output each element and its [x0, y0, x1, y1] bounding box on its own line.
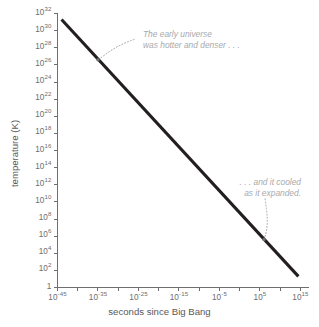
annotation-early-line-1: The early universe	[143, 29, 240, 40]
y-tick-label: 1032	[10, 8, 52, 17]
y-axis-title: temperature (K)	[9, 94, 20, 214]
annotation-cooled-expanded: . . . and it cooled as it expanded.	[217, 177, 301, 198]
y-tick-label: 104	[10, 247, 52, 256]
annotation-cooled-line-1: . . . and it cooled	[217, 177, 301, 188]
x-tick-label: 10-25	[118, 293, 158, 302]
annotation-early-line-2: was hotter and denser . . .	[143, 40, 240, 51]
annotation-early-universe: The early universe was hotter and denser…	[143, 29, 240, 50]
y-tick-label: 108	[10, 213, 52, 222]
y-tick-label: 102	[10, 264, 52, 273]
annotation-cooled-line-2: as it expanded.	[217, 188, 301, 199]
chart-container: 1032103010281026102410221020101810161014…	[0, 0, 319, 327]
x-tick-label: 10-5	[199, 293, 239, 302]
annotation-target-dot-cooled	[262, 238, 265, 241]
y-tick-label: 106	[10, 230, 52, 239]
y-tick-label: 1026	[10, 59, 52, 68]
annotation-leaders	[96, 39, 267, 242]
x-axis-title: seconds since Big Bang	[0, 306, 319, 317]
annotation-leader-early	[101, 39, 136, 58]
data-line	[62, 19, 299, 276]
y-tick-label: 1024	[10, 76, 52, 85]
x-tick-label: 10-15	[159, 293, 199, 302]
x-tick-label: 1015	[280, 293, 319, 302]
data-series-group	[62, 19, 299, 276]
annotation-leader-cooled	[265, 198, 267, 237]
y-tick-label: 1	[10, 282, 52, 291]
y-tick-label: 1028	[10, 42, 52, 51]
x-tick-label: 105	[240, 293, 280, 302]
y-tick-label: 1030	[10, 25, 52, 34]
x-tick-label: 10-35	[78, 293, 118, 302]
x-tick-label: 10-45	[38, 293, 78, 302]
tick-marks	[54, 14, 300, 292]
annotation-target-dot-early	[96, 58, 99, 61]
